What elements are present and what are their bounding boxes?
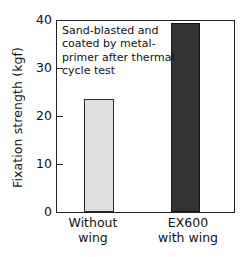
bar-ex600-with-wing: [171, 23, 200, 212]
y-tick-label-30: 30: [26, 62, 52, 74]
annotation-line-3: primer after thermal: [62, 51, 174, 64]
y-tick-label-10: 10: [26, 158, 52, 170]
y-tick-label-0-wrap: 0: [22, 206, 52, 218]
y-tick-label-20-wrap: 20: [22, 110, 52, 122]
y-tick-mark-20: [56, 116, 63, 117]
y-tick-label-20: 20: [26, 110, 52, 122]
x-label-without-wing: Without wing: [58, 216, 128, 245]
x-label-without-wing-line-1: Without: [58, 216, 128, 231]
annotation-line-2: coated by metal-: [62, 37, 174, 50]
y-tick-label-40-wrap: 40: [22, 14, 52, 26]
y-tick-label-30-wrap: 30: [22, 62, 52, 74]
x-label-without-wing-line-2: wing: [58, 231, 128, 246]
bar-chart-figure: Fixation strength (kgf) 40 30 20 10 0 Sa…: [0, 0, 248, 257]
annotation-line-1: Sand-blasted and: [62, 24, 174, 37]
y-tick-mark-40: [56, 20, 63, 21]
x-label-ex600-with-wing: EX600 with wing: [148, 216, 228, 245]
x-label-ex600-with-wing-line-2: with wing: [148, 231, 228, 246]
y-tick-label-0: 0: [26, 206, 52, 218]
bar-without-wing: [84, 99, 114, 212]
y-tick-label-10-wrap: 10: [22, 158, 52, 170]
y-tick-label-40: 40: [26, 14, 52, 26]
annotation-line-4: cycle test: [62, 64, 174, 77]
y-tick-mark-0: [56, 212, 63, 213]
x-label-ex600-with-wing-line-1: EX600: [148, 216, 228, 231]
chart-annotation: Sand-blasted and coated by metal- primer…: [62, 24, 174, 78]
y-tick-mark-10: [56, 164, 63, 165]
